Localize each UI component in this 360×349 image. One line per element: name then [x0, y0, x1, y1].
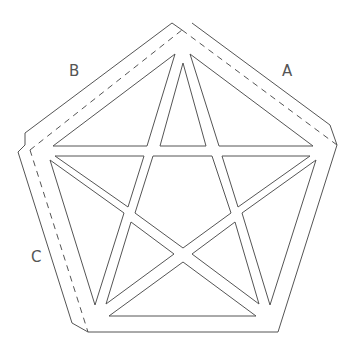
pentagon-edge-left-top	[18, 133, 25, 152]
fold-line-b	[30, 30, 182, 150]
hole-bottom	[109, 262, 256, 316]
label-a: A	[282, 62, 292, 80]
hole-top-spike	[160, 63, 206, 146]
label-b: B	[69, 62, 79, 80]
tab-b-outline	[25, 23, 182, 133]
pentagram-net	[0, 0, 360, 349]
hole-center-pentagon	[135, 156, 231, 248]
hole-left-edge	[50, 160, 124, 305]
fold-line-c	[30, 150, 88, 332]
hole-right-spike	[222, 156, 310, 207]
tab-a-outline	[192, 23, 337, 145]
hole-left-spike	[55, 156, 144, 207]
label-c: C	[31, 248, 41, 266]
fold-line-a	[182, 30, 337, 145]
tab-c-outline	[18, 152, 88, 332]
hole-top-right	[190, 54, 313, 146]
